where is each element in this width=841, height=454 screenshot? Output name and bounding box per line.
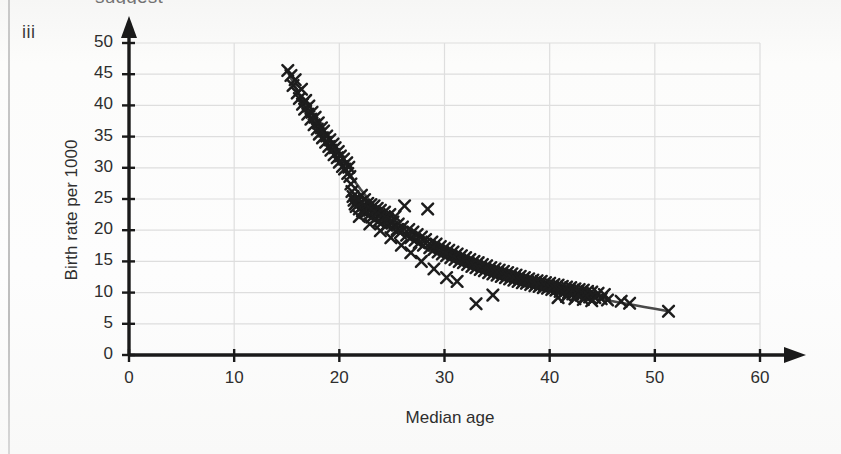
data-points bbox=[282, 65, 674, 317]
y-tick-label: 50 bbox=[73, 32, 113, 52]
y-tick-label: 30 bbox=[73, 157, 113, 177]
x-tick-label: 0 bbox=[109, 368, 149, 388]
y-tick-label: 45 bbox=[73, 63, 113, 83]
data-point-marker bbox=[405, 247, 416, 258]
data-point-marker bbox=[471, 298, 482, 309]
y-tick-label: 5 bbox=[73, 313, 113, 333]
y-tick-label: 25 bbox=[73, 188, 113, 208]
scatter-chart: Birth rate per 1000 Median age 051015202… bbox=[0, 0, 841, 454]
axes bbox=[121, 16, 806, 363]
data-point-marker bbox=[422, 204, 433, 215]
x-tick-label: 50 bbox=[635, 368, 675, 388]
data-point-marker bbox=[399, 200, 410, 211]
data-point-marker bbox=[441, 272, 452, 283]
x-tick-label: 10 bbox=[214, 368, 254, 388]
x-tick-label: 40 bbox=[530, 368, 570, 388]
x-tick-label: 20 bbox=[319, 368, 359, 388]
y-tick-label: 0 bbox=[73, 344, 113, 364]
data-point-marker bbox=[375, 225, 386, 236]
x-axis-title: Median age bbox=[330, 408, 570, 428]
y-tick-label: 10 bbox=[73, 282, 113, 302]
y-tick-label: 15 bbox=[73, 250, 113, 270]
y-tick-label: 20 bbox=[73, 219, 113, 239]
data-point-marker bbox=[429, 263, 440, 274]
x-tick-label: 60 bbox=[740, 368, 780, 388]
figure-page: suggest iii Birth rate per 1000 Median a… bbox=[0, 0, 841, 454]
x-tick-label: 30 bbox=[425, 368, 465, 388]
data-point-marker bbox=[452, 276, 463, 287]
data-point-marker bbox=[487, 290, 498, 301]
y-tick-label: 35 bbox=[73, 126, 113, 146]
y-tick-label: 40 bbox=[73, 94, 113, 114]
